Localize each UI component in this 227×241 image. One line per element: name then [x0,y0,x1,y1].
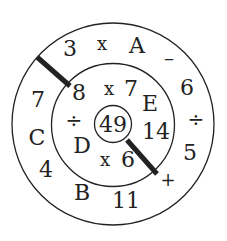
divider-bar-top-left [37,57,70,86]
number-wheel-puzzle: 49 8x7E146xD÷ 3xA–6÷5+11B4C7 [0,0,227,241]
outer-label-8: + [160,169,175,190]
outer-label-1: 3 [63,36,77,61]
outer-label-5: 6 [180,75,194,100]
middle-label-2: x [104,78,114,99]
outer-label-3: A [128,33,146,58]
middle-label-3: 7 [124,76,138,101]
center-value: 49 [99,112,127,137]
middle-label-6: 6 [121,147,135,172]
outer-label-6: ÷ [188,107,205,131]
outer-label-4: – [164,46,174,70]
middle-label-7: x [100,149,110,170]
middle-label-1: 8 [72,80,86,105]
middle-label-8: D [73,133,91,158]
outer-label-7: 5 [183,140,197,165]
outer-label-9: 11 [112,188,140,213]
outer-label-13: 7 [31,87,45,112]
middle-label-5: 14 [142,119,170,144]
outer-label-10: B [74,180,90,205]
outer-label-2: x [97,33,107,54]
middle-label-4: E [142,91,158,116]
middle-label-9: ÷ [66,108,83,132]
outer-label-12: C [29,125,46,150]
outer-label-11: 4 [39,157,53,182]
